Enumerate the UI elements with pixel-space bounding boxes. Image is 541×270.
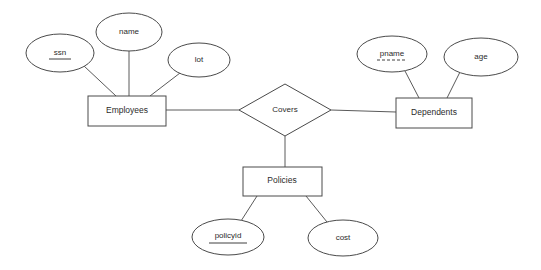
er-diagram-canvas: ssn name lot pname age policyid cos (0, 0, 541, 270)
attribute-lot[interactable]: lot (168, 43, 230, 77)
edge-policies-cost (306, 196, 327, 222)
cost-label: cost (336, 233, 351, 242)
attribute-name[interactable]: name (96, 13, 162, 51)
attribute-cost[interactable]: cost (308, 220, 378, 256)
er-diagram-svg: ssn name lot pname age policyid cos (0, 0, 541, 270)
policyid-label: policyid (215, 231, 242, 240)
age-label: age (474, 52, 488, 61)
dependents-label: Dependents (411, 107, 457, 117)
attribute-age[interactable]: age (444, 38, 518, 76)
edge-lot-employees (150, 73, 180, 96)
policies-label: Policies (267, 175, 296, 185)
employees-label: Employees (106, 105, 148, 115)
edge-policies-policyid (241, 196, 257, 221)
entity-employees[interactable]: Employees (88, 96, 166, 126)
edge-pname-dependents (405, 71, 419, 98)
entity-policies[interactable]: Policies (243, 167, 322, 196)
attribute-pname[interactable]: pname (357, 36, 427, 72)
attribute-ssn[interactable]: ssn (26, 34, 94, 72)
entity-dependents[interactable]: Dependents (396, 98, 472, 128)
edge-age-dependents (447, 72, 460, 98)
ssn-label: ssn (54, 48, 66, 57)
attribute-policyid[interactable]: policyid (192, 219, 264, 255)
edge-covers-dependents (331, 110, 396, 112)
edge-ssn-employees (84, 66, 116, 96)
name-label: name (119, 27, 140, 36)
lot-label: lot (195, 55, 204, 64)
covers-label: Covers (272, 105, 297, 114)
relationship-covers[interactable]: Covers (239, 84, 331, 136)
pname-label: pname (380, 49, 405, 58)
